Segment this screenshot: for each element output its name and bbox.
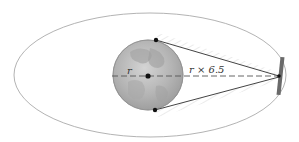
upper-tangent-point [154, 38, 158, 42]
distance-label: r × 6.5 [189, 64, 224, 75]
lower-tangent-point [153, 108, 157, 112]
planet-center-point [145, 73, 150, 78]
orbit-diagram: r r × 6.5 [0, 0, 299, 142]
satellite [277, 57, 285, 95]
